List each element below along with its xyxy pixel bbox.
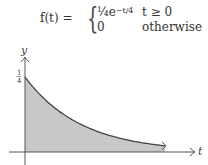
shaded-area [25, 77, 165, 152]
y-axis-label: y [20, 44, 28, 57]
x-axis-label: t [198, 145, 203, 158]
y-tick-label-numerator: 1 [17, 69, 21, 77]
pdf-plot: t y 1 4 [0, 0, 208, 165]
y-tick-label-denominator: 4 [17, 77, 22, 85]
